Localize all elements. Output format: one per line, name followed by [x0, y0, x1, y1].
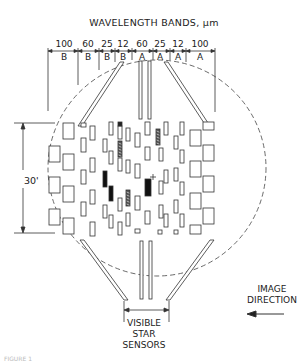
detector [109, 122, 113, 135]
detector [158, 230, 162, 234]
band-width-value: 25 [154, 40, 165, 49]
field-of-view-circle [48, 60, 266, 276]
detector [126, 160, 130, 173]
detector [164, 214, 168, 227]
detector [118, 222, 122, 235]
detector [180, 122, 184, 135]
band-width-value: 100 [191, 40, 208, 49]
band-width-value: 100 [55, 40, 72, 49]
field-height-label: 30' [24, 176, 39, 186]
detector [109, 151, 113, 164]
band-group-label: A [139, 53, 145, 62]
image-direction-label: IMAGE DIRECTION [242, 284, 302, 306]
detector [126, 128, 130, 141]
detector [63, 123, 74, 139]
detector [118, 126, 122, 139]
detector [135, 164, 140, 178]
detector [145, 122, 150, 135]
band-group-label: A [157, 53, 163, 62]
detector [126, 213, 130, 226]
detector [103, 171, 107, 187]
detector [190, 225, 201, 234]
detector [180, 214, 184, 227]
detector [164, 122, 168, 135]
band-group-label: A [197, 53, 203, 62]
image-direction-arrow [247, 311, 284, 317]
detector [164, 170, 168, 183]
focal-plane-diagram [0, 0, 308, 364]
detector [145, 147, 150, 160]
band-width-value: 25 [101, 40, 112, 49]
detector [180, 150, 184, 163]
band-group-label: B [61, 53, 67, 62]
detector [103, 205, 107, 218]
detector [90, 190, 95, 204]
detector [159, 181, 163, 194]
detector [135, 133, 140, 147]
detector [190, 193, 201, 209]
detector [49, 146, 60, 162]
detector [135, 196, 140, 210]
detector [118, 158, 122, 171]
detector [49, 209, 60, 225]
detector [174, 168, 178, 181]
detector [63, 186, 74, 202]
detector [159, 148, 163, 161]
detector [109, 215, 113, 228]
band-width-value: 60 [82, 40, 93, 49]
detector [103, 139, 107, 152]
band-dimension-lines [48, 48, 215, 112]
detector [90, 126, 95, 140]
band-width-value: 12 [117, 40, 128, 49]
detector [90, 158, 95, 172]
detector [81, 138, 86, 152]
detector [203, 145, 214, 161]
detector [81, 202, 86, 216]
band-group-label: B [120, 53, 126, 62]
detector [145, 211, 150, 224]
detector [90, 222, 95, 236]
diagram-title: WAVELENGTH BANDS, μm [0, 18, 308, 28]
band-group-label: B [104, 53, 110, 62]
detector [190, 161, 201, 177]
star-sensors-label: VISIBLE STAR SENSORS [120, 318, 168, 351]
detector [203, 176, 214, 192]
figure-caption: FIGURE 1 [4, 356, 32, 362]
detector [109, 186, 113, 201]
band-group-label: A [175, 53, 181, 62]
detector [145, 179, 151, 196]
detector [174, 136, 178, 149]
detector [203, 122, 214, 130]
band-width-value: 12 [172, 40, 183, 49]
detector [63, 154, 74, 170]
band-group-label: B [85, 53, 91, 62]
detector [49, 177, 60, 193]
detector [63, 218, 74, 234]
detector [174, 200, 178, 213]
detector [159, 205, 163, 218]
band-width-value: 60 [136, 40, 147, 49]
detector [81, 123, 86, 127]
detector [174, 230, 178, 234]
detector [135, 229, 140, 233]
detector [118, 122, 122, 126]
detector [190, 130, 201, 146]
detector [81, 170, 86, 184]
detector-array [49, 122, 214, 236]
detector [203, 208, 214, 224]
detector [118, 198, 122, 211]
detector [180, 182, 184, 195]
